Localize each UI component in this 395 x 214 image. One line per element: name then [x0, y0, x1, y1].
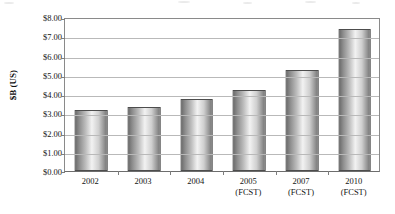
y-axis-tick-label: $3.00	[26, 110, 62, 119]
y-axis-tick-mark	[61, 154, 65, 155]
y-axis-tick-mark	[61, 96, 65, 97]
y-axis-tick-label: $7.00	[26, 33, 62, 42]
y-axis-tick-mark	[61, 58, 65, 59]
bar-chart: $B (US) $0.00$1.00$2.00$3.00$4.00$5.00$6…	[0, 0, 395, 214]
x-axis-tick-label: 2005(FCST)	[222, 176, 275, 198]
bar[interactable]	[338, 29, 371, 171]
scan-artifact	[352, 2, 360, 4]
y-axis-tick-label: $8.00	[26, 14, 62, 23]
scan-artifact	[243, 2, 252, 4]
y-axis-tick-mark	[61, 172, 65, 173]
y-axis-title: $B (US)	[8, 50, 18, 120]
x-axis-tick-label-year: 2004	[187, 176, 204, 186]
gridline	[65, 96, 379, 97]
x-axis-tick-mark	[328, 171, 329, 175]
gridline	[65, 154, 379, 155]
y-axis-tick-labels: $0.00$1.00$2.00$3.00$4.00$5.00$6.00$7.00…	[26, 14, 62, 172]
x-axis-tick-mark	[223, 171, 224, 175]
bar-slot	[170, 19, 223, 171]
gridline	[65, 77, 379, 78]
x-axis-tick-mark	[118, 171, 119, 175]
gridline	[65, 38, 379, 39]
bar-slot	[223, 19, 276, 171]
x-axis-tick-label: 2007(FCST)	[275, 176, 328, 198]
x-axis-tick-label: 2003	[117, 176, 170, 187]
x-axis-tick-label: 2002	[64, 176, 117, 187]
y-axis-tick-mark	[61, 135, 65, 136]
bar[interactable]	[75, 110, 108, 171]
x-axis-tick-label-year: 2007	[292, 176, 309, 186]
bars-layer	[65, 19, 379, 171]
bar[interactable]	[233, 90, 266, 171]
y-axis-tick-label: $5.00	[26, 72, 62, 81]
y-axis-tick-label: $4.00	[26, 91, 62, 100]
y-axis-tick-label: $1.00	[26, 149, 62, 158]
gridline	[65, 115, 379, 116]
y-axis-tick-label: $6.00	[26, 52, 62, 61]
x-axis-tick-labels: 2002200320042005(FCST)2007(FCST)2010(FCS…	[64, 176, 380, 212]
x-axis-tick-label: 2004	[169, 176, 222, 187]
y-axis-tick-mark	[61, 38, 65, 39]
gridline	[65, 58, 379, 59]
bar-slot	[276, 19, 329, 171]
x-axis-tick-mark	[170, 171, 171, 175]
gridline	[65, 135, 379, 136]
plot-area	[64, 18, 380, 172]
x-axis-tick-label-year: 2005	[240, 176, 257, 186]
y-axis-tick-mark	[61, 115, 65, 116]
x-axis-tick-mark	[276, 171, 277, 175]
x-axis-tick-label-year: 2002	[82, 176, 99, 186]
x-axis-tick-label-forecast: (FCST)	[327, 187, 380, 198]
scan-artifact	[178, 1, 190, 3]
bar-slot	[328, 19, 381, 171]
bar-slot	[65, 19, 118, 171]
x-axis-tick-label-year: 2003	[134, 176, 151, 186]
y-axis-tick-mark	[61, 19, 65, 20]
y-axis-tick-label: $2.00	[26, 129, 62, 138]
x-axis-tick-label: 2010(FCST)	[327, 176, 380, 198]
x-axis-tick-label-forecast: (FCST)	[275, 187, 328, 198]
scan-artifact	[305, 1, 316, 3]
scan-artifact	[4, 2, 14, 4]
y-axis-tick-mark	[61, 77, 65, 78]
bar-slot	[118, 19, 171, 171]
x-axis-tick-label-forecast: (FCST)	[222, 187, 275, 198]
x-axis-tick-label-year: 2010	[345, 176, 362, 186]
y-axis-tick-label: $0.00	[26, 168, 62, 177]
bar[interactable]	[286, 70, 319, 171]
